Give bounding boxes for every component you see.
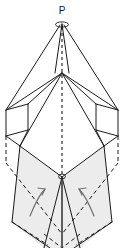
apex-label: P	[59, 5, 66, 16]
crystal-figure-container: P	[0, 0, 124, 248]
crystal-diagram-svg: P	[0, 0, 124, 248]
